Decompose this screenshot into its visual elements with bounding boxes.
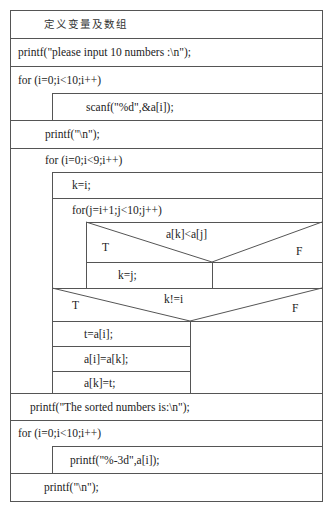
cond2-true-label: T <box>72 298 79 312</box>
cond1-true-label: T <box>102 240 109 254</box>
stmt-swap1: t=a[i]; <box>84 327 113 341</box>
stmt-swap2: a[i]=a[k]; <box>84 352 128 366</box>
stmt-sorted-msg: printf("The sorted numbers is:\n"); <box>30 400 190 414</box>
title-label: 定义变量及数组 <box>44 17 128 31</box>
cond2-false-label: F <box>292 301 298 315</box>
stmt-k-assign: k=i; <box>72 178 91 192</box>
cond1-false-label: F <box>296 244 302 258</box>
stmt-k-j: k=j; <box>118 268 137 282</box>
stmt-loop3: for (i=0;i<10;i++) <box>18 426 101 440</box>
stmt-newline2: printf("\n"); <box>44 480 99 494</box>
stmt-newline1: printf("\n"); <box>45 127 100 141</box>
stmt-loop1: for (i=0;i<10;i++) <box>18 73 101 87</box>
stmt-print-elem: printf("%-3d",a[i]); <box>70 453 160 467</box>
stmt-outer-loop: for (i=0;i<9;i++) <box>45 153 122 167</box>
decision-cond2: k!=i <box>164 292 183 306</box>
decision-cond1: a[k]<a[j] <box>166 227 207 241</box>
stmt-prompt: printf("please input 10 numbers :\n"); <box>18 45 191 59</box>
stmt-inner-loop: for(j=i+1;j<10;j++) <box>72 203 162 217</box>
stmt-scanf: scanf("%d",&a[i]); <box>86 100 174 114</box>
stmt-swap3: a[k]=t; <box>84 376 115 390</box>
